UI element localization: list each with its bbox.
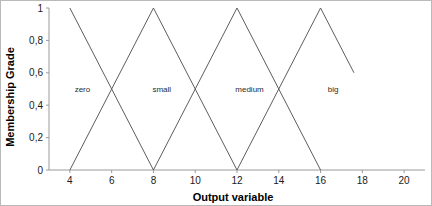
x-axis-tick-label: 16 — [315, 175, 327, 186]
y-axis-tick-label: 0 — [37, 165, 43, 176]
y-axis: 00,20,40,60,81 — [29, 3, 49, 176]
membership-curves — [70, 8, 354, 170]
x-axis-tick-label: 20 — [399, 175, 411, 186]
x-axis-tick-label: 6 — [109, 175, 115, 186]
x-axis-tick-label: 12 — [231, 175, 243, 186]
membership-curve-labels: zerosmallmediumbig — [75, 85, 339, 94]
x-axis-tick-label: 8 — [151, 175, 157, 186]
x-axis-title: Output variable — [193, 191, 274, 203]
y-axis-tick-label: 0,4 — [29, 100, 43, 111]
x-axis-tick-label: 18 — [357, 175, 369, 186]
y-axis-tick-label: 0,2 — [29, 132, 43, 143]
x-axis-tick-label: 14 — [273, 175, 285, 186]
x-axis-tick-label: 10 — [190, 175, 202, 186]
membership-function-chart: 00,20,40,60,81 468101214161820 zerosmall… — [1, 1, 432, 206]
chart-frame: 00,20,40,60,81 468101214161820 zerosmall… — [0, 0, 432, 206]
x-axis: 468101214161820 — [49, 170, 425, 186]
membership-label-medium: medium — [235, 85, 264, 94]
y-axis-tick-label: 1 — [37, 3, 43, 14]
membership-label-small: small — [152, 85, 171, 94]
membership-label-big: big — [328, 85, 339, 94]
membership-label-zero: zero — [75, 85, 91, 94]
y-axis-tick-label: 0,6 — [29, 67, 43, 78]
x-axis-tick-label: 4 — [67, 175, 73, 186]
plot-area: 00,20,40,60,81 468101214161820 zerosmall… — [1, 1, 431, 205]
y-axis-tick-label: 0,8 — [29, 35, 43, 46]
y-axis-title: Membership Grade — [4, 47, 16, 147]
